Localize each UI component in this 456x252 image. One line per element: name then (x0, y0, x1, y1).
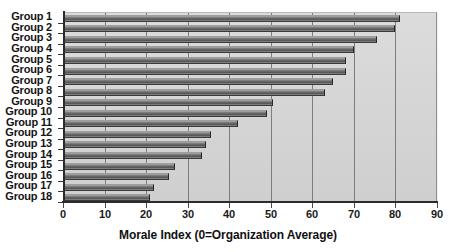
x-tick-label-20: 20 (126, 208, 166, 220)
y-axis-line (63, 11, 65, 203)
gridline-90 (437, 13, 438, 203)
bar (63, 36, 377, 43)
bar (63, 99, 273, 106)
y-tick (58, 33, 63, 34)
x-tick-label-80: 80 (375, 208, 415, 220)
bar (63, 78, 333, 85)
gridline-80 (395, 13, 396, 203)
y-tick (58, 181, 63, 182)
bar-chart: Group 1Group 2Group 3Group 4Group 5Group… (0, 0, 456, 252)
bar (63, 120, 238, 127)
x-axis-title: Morale Index (0=Organization Average) (0, 228, 456, 242)
x-tick-label-50: 50 (251, 208, 291, 220)
y-axis-category-label: Group 18 (0, 190, 58, 202)
bar (63, 46, 354, 53)
y-tick (58, 23, 63, 24)
bar (63, 15, 400, 22)
y-tick (58, 86, 63, 87)
y-tick (58, 96, 63, 97)
y-tick (58, 160, 63, 161)
plot-area (63, 12, 437, 202)
x-tick-label-10: 10 (85, 208, 125, 220)
bar (63, 141, 206, 148)
y-tick (58, 139, 63, 140)
bar (63, 68, 346, 75)
y-tick (58, 107, 63, 108)
y-axis-labels: Group 1Group 2Group 3Group 4Group 5Group… (0, 12, 58, 202)
x-tick-label-40: 40 (209, 208, 249, 220)
x-axis-line (62, 201, 438, 203)
y-tick (58, 118, 63, 119)
bar (63, 152, 202, 159)
x-tick-label-60: 60 (292, 208, 332, 220)
x-tick-label-70: 70 (334, 208, 374, 220)
bar (63, 110, 267, 117)
bar (63, 89, 325, 96)
y-tick (58, 75, 63, 76)
bar (63, 131, 211, 138)
y-tick (58, 44, 63, 45)
y-tick (58, 128, 63, 129)
y-tick (58, 149, 63, 150)
bar (63, 163, 175, 170)
x-tick-label-30: 30 (168, 208, 208, 220)
y-tick (58, 170, 63, 171)
x-tick-label-0: 0 (43, 208, 83, 220)
bar (63, 184, 154, 191)
bar (63, 25, 395, 32)
bar (63, 173, 169, 180)
y-tick (58, 65, 63, 66)
x-tick-label-90: 90 (417, 208, 456, 220)
y-tick (58, 54, 63, 55)
y-tick (58, 191, 63, 192)
bar (63, 57, 346, 64)
